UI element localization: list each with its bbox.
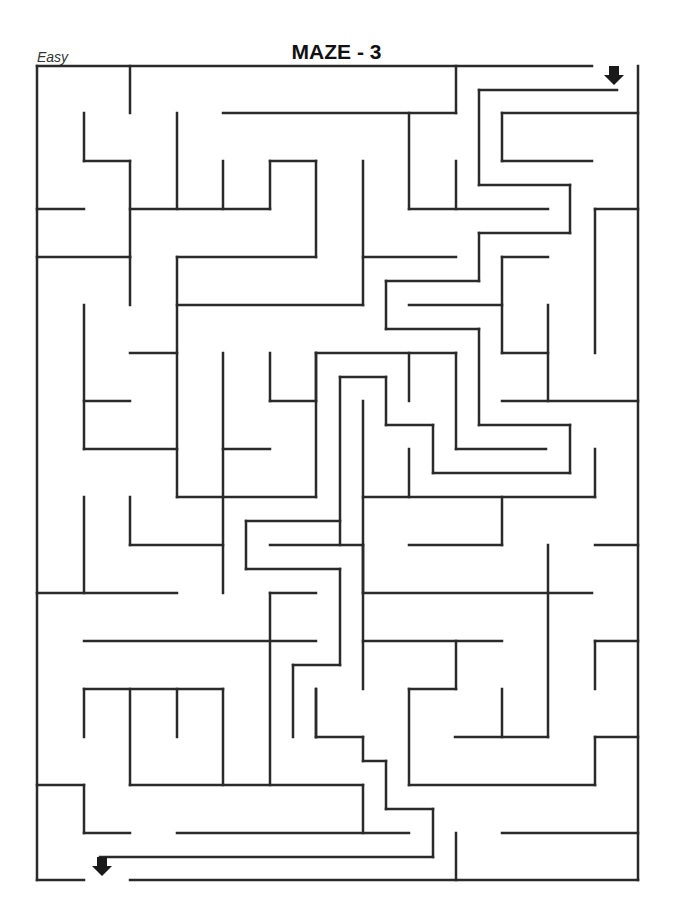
maze-walls	[37, 66, 638, 880]
entrance-arrow-icon	[604, 66, 624, 85]
exit-arrow-icon	[92, 857, 112, 876]
maze-board	[0, 0, 673, 924]
